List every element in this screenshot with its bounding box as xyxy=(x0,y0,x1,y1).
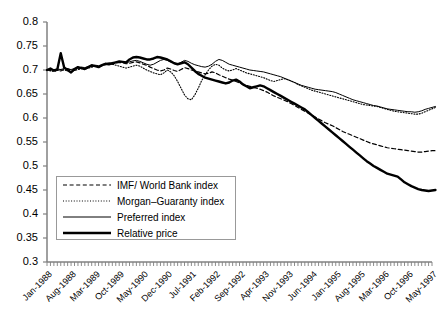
legend-label: Preferred index xyxy=(117,212,185,223)
y-axis-tick-label: 0.6 xyxy=(4,111,38,123)
legend-item: Morgan–Guaranty index xyxy=(57,193,235,209)
legend-label: Morgan–Guaranty index xyxy=(117,196,224,207)
legend-line-sample xyxy=(61,194,113,208)
chart-container: 0.80.750.70.650.60.550.50.450.40.350.3 J… xyxy=(0,0,439,317)
y-axis-tick-label: 0.3 xyxy=(4,255,38,267)
y-axis-tick-label: 0.45 xyxy=(4,183,38,195)
legend-item: Preferred index xyxy=(57,209,235,225)
y-axis-tick-label: 0.4 xyxy=(4,207,38,219)
legend-line-sample xyxy=(61,178,113,192)
legend-item: Relative price xyxy=(57,225,235,241)
y-axis-tick-label: 0.55 xyxy=(4,135,38,147)
chart-legend: IMF/ World Bank indexMorgan–Guaranty ind… xyxy=(56,176,236,240)
legend-label: Relative price xyxy=(117,228,178,239)
y-axis-tick-label: 0.8 xyxy=(4,15,38,27)
y-axis-tick-label: 0.7 xyxy=(4,63,38,75)
legend-item: IMF/ World Bank index xyxy=(57,177,235,193)
line-chart-plot xyxy=(0,0,439,317)
series-line-2 xyxy=(47,59,435,112)
legend-line-sample xyxy=(61,210,113,224)
series-line-1 xyxy=(47,64,435,114)
y-axis-tick-label: 0.35 xyxy=(4,231,38,243)
y-axis-tick-label: 0.75 xyxy=(4,39,38,51)
y-axis-tick-label: 0.65 xyxy=(4,87,38,99)
series-line-3 xyxy=(47,53,435,191)
y-axis-tick-label: 0.5 xyxy=(4,159,38,171)
legend-label: IMF/ World Bank index xyxy=(117,180,218,191)
legend-line-sample xyxy=(61,226,113,240)
